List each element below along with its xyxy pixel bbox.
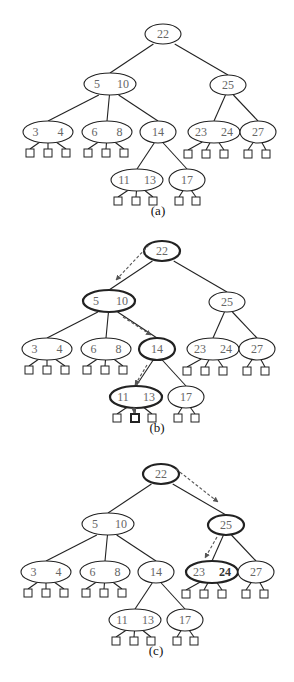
tree-node-17: 17 [169, 169, 205, 191]
node-key: 24 [220, 342, 232, 356]
node-key: 3 [33, 125, 39, 139]
node-key: 6 [92, 125, 98, 139]
external-leaf-square [173, 637, 181, 645]
leaf-edge [187, 359, 201, 367]
tree-edge [110, 44, 153, 73]
external-leaf-square [262, 150, 270, 158]
external-leaf-square [132, 197, 140, 205]
external-leaf-square [42, 589, 50, 597]
external-leaf-square [101, 366, 109, 374]
external-leaf-square [191, 414, 199, 422]
node-key: 8 [117, 125, 123, 139]
leaf-edge [114, 359, 123, 366]
tree-edge [174, 261, 227, 292]
external-leaf-square [202, 150, 210, 158]
node-key: 3 [32, 342, 38, 356]
tree-node-6-8: 68 [82, 121, 132, 143]
node-key: 10 [116, 294, 128, 308]
leaf-edge [142, 630, 151, 637]
node-key: 6 [91, 342, 97, 356]
external-leaf-square [26, 149, 34, 157]
tree-node-23-24: 2324 [186, 561, 238, 583]
node-key: 13 [144, 173, 156, 187]
search-tree-figure: 2251025346814232427111317(a)225102534681… [0, 0, 294, 682]
tree-node-17: 17 [168, 386, 204, 408]
leaf-edge [88, 142, 98, 149]
external-leaf-square [24, 589, 32, 597]
leaf-edge [118, 190, 128, 197]
external-leaf-square [244, 150, 252, 158]
tree-node-14: 14 [140, 121, 176, 143]
external-leaf-square [190, 637, 198, 645]
node-key: 25 [221, 295, 233, 309]
tree-node-3-4: 34 [23, 121, 73, 143]
external-leaf-square [82, 589, 90, 597]
tree-edge [163, 143, 187, 169]
node-key: 11 [117, 390, 129, 404]
leaf-edge [115, 142, 124, 149]
external-leaf-square [61, 366, 69, 374]
node-key: 22 [157, 27, 169, 41]
node-key: 17 [180, 390, 192, 404]
external-leaf-square [44, 149, 52, 157]
node-key: 10 [115, 517, 127, 531]
tree-node-25: 25 [208, 515, 244, 535]
leaf-edge [54, 582, 64, 589]
external-leaf-square [113, 414, 121, 422]
leaf-edge [186, 582, 200, 590]
tree-node-23-24: 2324 [187, 338, 239, 360]
tree-node-25: 25 [210, 75, 246, 95]
tree-node-22: 22 [143, 464, 179, 484]
external-leaf-square [192, 197, 200, 205]
tree-panel-c: 2251025346814232427111317(c) [21, 464, 274, 658]
node-key: 14 [151, 342, 163, 356]
tree-edge [105, 535, 107, 561]
node-key: 11 [116, 613, 128, 627]
search-path-arrow [123, 317, 151, 335]
node-key: 23 [193, 565, 205, 579]
node-key: 23 [194, 342, 206, 356]
node-key: 27 [250, 565, 262, 579]
node-key: 24 [221, 125, 233, 139]
external-leaf-square [182, 590, 190, 598]
external-leaf-square [261, 367, 269, 375]
tree-edge [109, 261, 152, 290]
leaf-edge [28, 582, 38, 589]
external-leaf-square [242, 590, 250, 598]
leaf-edge [116, 630, 126, 637]
external-leaf-square [100, 589, 108, 597]
node-key: 13 [143, 390, 155, 404]
panel-caption: (a) [151, 203, 165, 218]
node-key: 13 [142, 613, 154, 627]
node-key: 4 [57, 342, 63, 356]
node-key: 14 [152, 125, 164, 139]
tree-edge [232, 312, 257, 338]
leaf-edge [56, 142, 66, 149]
leaf-edge [113, 582, 122, 589]
tree-node-23-24: 2324 [188, 121, 240, 143]
node-key: 6 [90, 565, 96, 579]
external-leaf-square [119, 366, 127, 374]
tree-edge [46, 535, 97, 561]
tree-edge [118, 312, 157, 338]
tree-node-6-8: 68 [81, 338, 131, 360]
tree-edge [117, 535, 156, 561]
external-leaf-square [174, 414, 182, 422]
external-leaf-square [260, 590, 268, 598]
external-leaf-square [43, 366, 51, 374]
node-key: 8 [116, 342, 122, 356]
panel-caption: (b) [149, 420, 164, 435]
external-leaf-square [120, 149, 128, 157]
external-leaf-square [184, 150, 192, 158]
leaf-edge [246, 582, 252, 590]
external-leaf-square [62, 149, 70, 157]
tree-edge [136, 360, 153, 386]
tree-node-22: 22 [145, 24, 181, 44]
leaf-edge [247, 359, 253, 367]
tree-edge [47, 312, 98, 338]
tree-edge [48, 95, 99, 121]
leaf-edge [30, 142, 40, 149]
tree-node-27: 27 [240, 121, 276, 143]
search-path-arrow [135, 365, 147, 385]
external-leaf-square [25, 366, 33, 374]
